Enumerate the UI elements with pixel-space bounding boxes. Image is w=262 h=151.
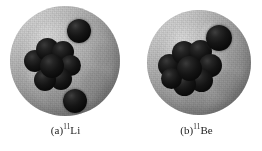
panel-be11: (b)11Be	[131, 0, 262, 151]
halo-neutron-upper-right	[206, 25, 232, 51]
halo-neutron-lower-right	[63, 89, 87, 113]
nucleon	[177, 56, 202, 81]
panel-caption: (a)11Li	[0, 124, 131, 136]
nucleon	[40, 54, 64, 78]
caption-element-symbol: Li	[70, 124, 80, 136]
panel-li11: (a)11Li	[0, 0, 131, 151]
panel-caption: (b)11Be	[131, 124, 262, 136]
caption-label: (b)	[180, 124, 193, 136]
core-cluster	[22, 36, 84, 94]
caption-element-symbol: Be	[200, 124, 212, 136]
halo-nuclei-figure: (a)11Li (b)11Be	[0, 0, 262, 151]
halo-neutron-upper-right	[67, 19, 91, 43]
caption-label: (a)	[51, 124, 64, 136]
